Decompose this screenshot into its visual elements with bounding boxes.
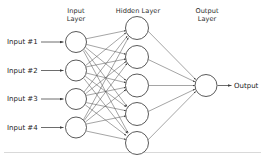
hidden-layer-nodes <box>126 17 149 155</box>
input-label-3: Input #3 <box>7 95 38 103</box>
input-arrows-group <box>41 42 64 128</box>
edge-i3-h2 <box>85 61 126 94</box>
edge-h2-o1 <box>148 60 195 82</box>
input-node-3 <box>66 89 87 110</box>
input-node-2 <box>66 60 87 81</box>
output-label: Output <box>234 82 258 90</box>
edge-i4-h2 <box>84 63 127 120</box>
hidden-node-4 <box>126 103 149 126</box>
edge-h4-o1 <box>148 89 195 111</box>
input-label-2: Input #2 <box>7 67 38 75</box>
hidden-to-output-edges <box>148 31 196 140</box>
edge-i4-h5 <box>86 131 126 139</box>
output-layer-nodes <box>195 75 217 97</box>
hidden-node-5 <box>126 132 149 155</box>
input-layer-title: Input Layer <box>56 7 96 23</box>
network-graphic <box>0 0 265 159</box>
output-layer-title: Output Layer <box>186 7 228 23</box>
edge-h5-o1 <box>148 91 196 139</box>
edge-i4-h4 <box>86 116 126 124</box>
hidden-node-2 <box>126 46 149 69</box>
output-node-1 <box>195 75 217 97</box>
input-to-hidden-edges <box>83 31 128 140</box>
neural-network-diagram: Input Layer Hidden Layer Output Layer In… <box>0 0 265 159</box>
edge-h1-o1 <box>148 31 196 79</box>
input-label-1: Input #1 <box>7 38 38 46</box>
hidden-node-1 <box>126 17 149 40</box>
input-label-4: Input #4 <box>7 124 38 132</box>
input-layer-nodes <box>66 32 87 139</box>
edge-i4-h1 <box>83 38 128 121</box>
edge-i1-h4 <box>84 50 127 107</box>
hidden-node-3 <box>126 74 149 97</box>
input-node-1 <box>66 32 87 53</box>
input-node-4 <box>66 117 87 138</box>
hidden-layer-title: Hidden Layer <box>107 7 169 15</box>
